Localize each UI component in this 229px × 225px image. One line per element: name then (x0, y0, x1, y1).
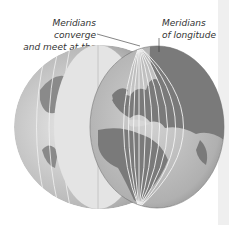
right-hemisphere (90, 46, 224, 208)
leader-line-poles (97, 34, 140, 46)
globe-diagram (0, 0, 229, 225)
